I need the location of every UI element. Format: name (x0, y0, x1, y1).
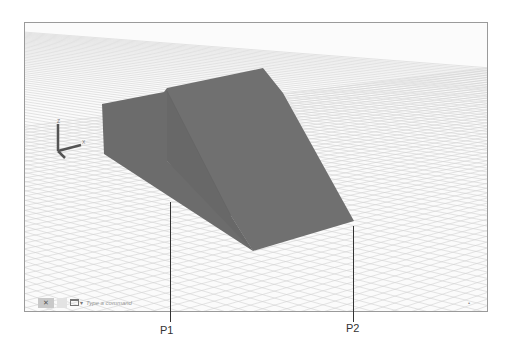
viewport-corner-marker: • (468, 300, 470, 306)
close-command-icon[interactable]: ✕ (38, 298, 54, 308)
command-input[interactable] (86, 300, 206, 306)
svg-text:Z: Z (57, 118, 60, 124)
chevron-down-icon[interactable]: ▾ (80, 299, 83, 306)
callout-label-p1: P1 (160, 324, 173, 336)
callout-line-p2 (353, 226, 354, 322)
callout-line-p1 (170, 202, 171, 322)
command-window-icon[interactable] (70, 299, 79, 306)
3d-scene: Z X (25, 23, 488, 312)
model-viewport[interactable]: Z X (24, 22, 488, 312)
callout-label-p2: P2 (346, 322, 359, 334)
command-line[interactable]: ✕ ▾ (38, 297, 206, 308)
command-options-button[interactable] (57, 298, 67, 308)
